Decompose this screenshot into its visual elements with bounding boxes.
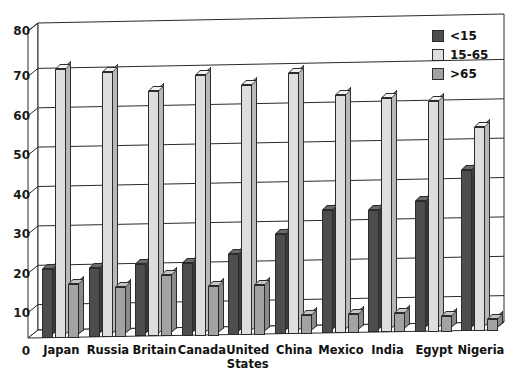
bar-mexico-0 <box>322 210 333 333</box>
bar-group <box>85 22 132 337</box>
y-tick-0: 0 <box>22 345 30 357</box>
x-label-india: India <box>364 343 411 357</box>
bar-egypt-1 <box>428 101 439 331</box>
bar-nigeria-2 <box>487 319 498 331</box>
y-tick-40: 40 <box>13 189 30 201</box>
bar-group <box>178 21 225 336</box>
bar-face <box>487 319 498 331</box>
bar-face <box>288 73 299 334</box>
bar-chart: 80 70 60 50 40 30 20 10 0 JapanRussiaBri… <box>0 0 516 376</box>
bar-britain-1 <box>148 91 159 337</box>
bar-face <box>254 285 265 335</box>
x-label-mexico: Mexico <box>318 343 365 357</box>
bar-side <box>346 87 351 329</box>
bar-side <box>219 278 224 332</box>
legend-label: <15 <box>450 29 477 43</box>
bar-face <box>415 201 426 331</box>
bar-face <box>348 314 359 333</box>
bar-face <box>195 75 206 336</box>
bar-face <box>115 287 126 337</box>
bar-face <box>68 284 79 338</box>
bar-side <box>126 279 131 333</box>
bar-face <box>301 315 312 334</box>
legend-swatch-icon <box>432 68 444 80</box>
x-label-egypt: Egypt <box>411 343 458 357</box>
bar-face <box>42 269 53 338</box>
x-label-russia: Russia <box>85 343 132 357</box>
bar-china-0 <box>275 234 286 334</box>
bar-face <box>441 316 452 331</box>
chart-legend: <1515-65>65 <box>432 27 512 84</box>
y-tick-60: 60 <box>13 110 30 122</box>
bar-japan-1 <box>55 69 66 338</box>
bar-face <box>135 264 146 337</box>
y-tick-50: 50 <box>13 149 30 161</box>
x-label-united-states: United States <box>224 343 271 371</box>
y-axis: 80 70 60 50 40 30 20 10 0 <box>0 0 34 376</box>
bar-face <box>322 210 333 333</box>
bar-russia-1 <box>102 72 113 337</box>
bar-face <box>241 85 252 334</box>
bar-group <box>38 23 85 338</box>
bar-japan-2 <box>68 284 79 338</box>
bar-face <box>228 254 239 335</box>
bar-canada-2 <box>208 286 219 336</box>
bar-india-0 <box>368 210 379 333</box>
legend-label: >65 <box>450 67 477 81</box>
bar-japan-0 <box>42 269 53 338</box>
bar-russia-2 <box>115 287 126 337</box>
bar-india-1 <box>381 98 392 332</box>
y-tick-80: 80 <box>13 25 30 37</box>
bar-canada-1 <box>195 75 206 336</box>
x-label-nigeria: Nigeria <box>457 343 504 357</box>
bar-mexico-1 <box>335 95 346 333</box>
bar-britain-2 <box>161 275 172 336</box>
bar-face <box>148 91 159 337</box>
bar-face <box>474 127 485 330</box>
bar-face <box>55 69 66 338</box>
bar-side <box>79 276 84 334</box>
bar-united-states-2 <box>254 285 265 335</box>
bar-india-2 <box>394 313 405 332</box>
bar-face <box>381 98 392 332</box>
bar-russia-0 <box>89 268 100 337</box>
x-label-china: China <box>271 343 318 357</box>
bar-face <box>102 72 113 337</box>
legend-item-0[interactable]: <15 <box>432 27 512 44</box>
y-tick-70: 70 <box>13 70 30 82</box>
bar-united-states-0 <box>228 254 239 335</box>
bar-face <box>335 95 346 333</box>
bar-face <box>461 170 472 331</box>
bar-side <box>439 93 444 327</box>
bar-nigeria-0 <box>461 170 472 331</box>
bar-group <box>318 18 365 333</box>
bar-china-1 <box>288 73 299 334</box>
bar-group <box>271 19 318 334</box>
bar-egypt-0 <box>415 201 426 331</box>
bar-face <box>89 268 100 337</box>
legend-item-1[interactable]: 15-65 <box>432 46 512 63</box>
bar-face <box>368 210 379 333</box>
bar-britain-0 <box>135 264 146 337</box>
x-label-japan: Japan <box>38 343 85 357</box>
bar-mexico-2 <box>348 314 359 333</box>
bar-face <box>428 101 439 331</box>
x-axis: JapanRussiaBritainCanadaUnited StatesChi… <box>38 343 504 376</box>
bar-face <box>161 275 172 336</box>
bar-canada-0 <box>182 263 193 336</box>
bar-egypt-2 <box>441 316 452 331</box>
bar-side <box>485 120 490 327</box>
bar-side <box>299 65 304 330</box>
bar-face <box>275 234 286 334</box>
bar-nigeria-1 <box>474 127 485 330</box>
bar-group <box>131 21 178 336</box>
bar-group <box>224 20 271 335</box>
bar-side <box>265 277 270 331</box>
bar-united-states-1 <box>241 85 252 334</box>
legend-swatch-icon <box>432 49 444 61</box>
bar-china-2 <box>301 315 312 334</box>
x-label-canada: Canada <box>178 343 225 357</box>
legend-item-2[interactable]: >65 <box>432 65 512 82</box>
bar-side <box>392 90 397 328</box>
bar-face <box>208 286 219 336</box>
